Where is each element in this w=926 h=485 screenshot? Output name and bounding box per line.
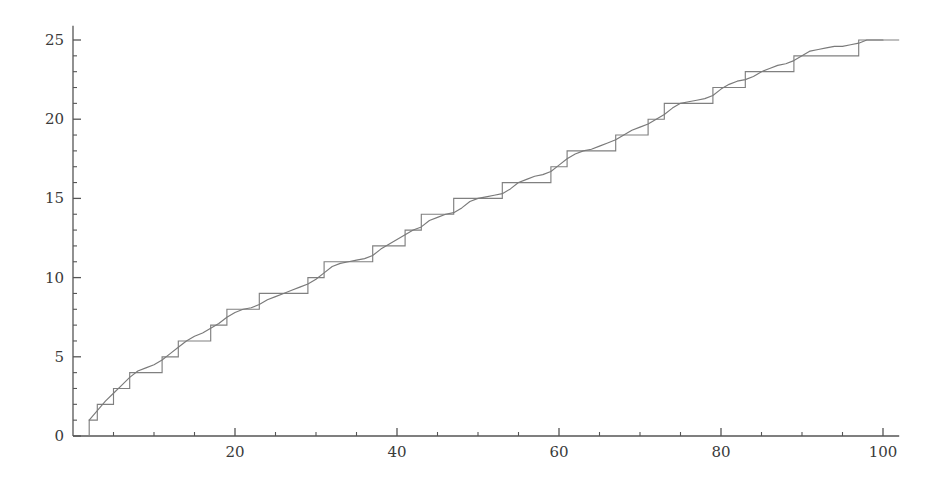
y-axis-tick-label: 25	[45, 31, 64, 49]
x-axis-tick-label: 100	[869, 443, 898, 461]
prime-counting-plot: 204060801000510152025	[0, 0, 926, 485]
y-axis-tick-label: 20	[45, 110, 64, 128]
y-axis-tick-label: 5	[54, 348, 64, 366]
step-function-curve	[88, 40, 900, 436]
smooth-approximation-curve	[89, 40, 883, 420]
chart-figure: 204060801000510152025	[0, 0, 926, 485]
y-axis-tick-label: 15	[45, 189, 64, 207]
x-axis-tick-label: 40	[387, 443, 406, 461]
x-axis-tick-label: 80	[711, 443, 730, 461]
y-axis-tick-label: 0	[54, 427, 64, 445]
x-axis-tick-label: 20	[225, 443, 244, 461]
y-axis-tick-label: 10	[45, 269, 64, 287]
x-axis-tick-label: 60	[549, 443, 568, 461]
